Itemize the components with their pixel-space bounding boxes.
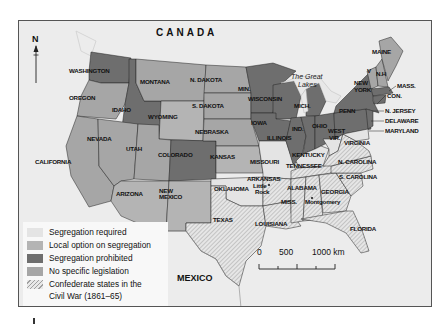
legend-swatch bbox=[27, 241, 43, 250]
legend-item-local-option: Local option on segregation bbox=[27, 239, 151, 251]
legend: Segregation required Local option on seg… bbox=[23, 222, 168, 306]
label-arkansas: ARKANSAS bbox=[247, 175, 281, 182]
label-mexico: MEXICO bbox=[177, 273, 213, 283]
label-florida: FLORIDA bbox=[350, 225, 377, 232]
label-tennessee: TENNESSEE bbox=[286, 162, 322, 169]
legend-label: Segregation prohibited bbox=[49, 253, 133, 263]
label-virginia: VIRGINIA bbox=[344, 139, 371, 146]
label-pennsylvania: PENN bbox=[339, 107, 356, 114]
label-little-rock-2: Rock bbox=[255, 188, 270, 195]
label-louisiana: LOUISIANA bbox=[255, 220, 288, 227]
label-s-dakota: S. DAKOTA bbox=[192, 102, 225, 109]
label-colorado: COLORADO bbox=[158, 151, 193, 158]
legend-item-confederate: Confederate states in the bbox=[27, 278, 142, 290]
label-indiana: IND. bbox=[292, 125, 304, 132]
label-new-mexico-2: MEXICO bbox=[159, 193, 183, 200]
scale-line bbox=[257, 257, 347, 277]
label-kansas: KANSAS bbox=[210, 153, 235, 160]
legend-item-segregation-prohibited: Segregation prohibited bbox=[27, 252, 133, 264]
label-nebraska: NEBRASKA bbox=[195, 128, 229, 135]
page-mark bbox=[33, 318, 35, 324]
label-texas: TEXAS bbox=[213, 216, 233, 223]
label-south-carolina: S. CAROLINA bbox=[339, 173, 378, 180]
scale-tick-500: 500 bbox=[279, 247, 293, 257]
legend-swatch bbox=[27, 254, 43, 263]
label-maine: MAINE bbox=[372, 48, 391, 55]
label-arizona: ARIZONA bbox=[116, 190, 144, 197]
label-canada: CANADA bbox=[156, 27, 217, 38]
north-arrow-icon bbox=[34, 45, 39, 83]
label-new-york-2: YORK bbox=[354, 86, 372, 93]
scale-tick-1000: 1000 km bbox=[312, 247, 345, 257]
label-massachusetts: MASS. bbox=[397, 82, 416, 89]
legend-item-no-legislation: No specific legislation bbox=[27, 265, 129, 277]
label-wisconsin: WISCONSIN bbox=[248, 95, 283, 102]
label-washington: WASHINGTON bbox=[69, 67, 110, 74]
label-west-virginia-2: VIR. bbox=[329, 134, 341, 141]
label-wyoming: WYOMING bbox=[148, 113, 178, 120]
label-iowa: IOWA bbox=[251, 119, 267, 126]
label-nevada: NEVADA bbox=[87, 135, 112, 142]
map-frame: CANADA MEXICO The Great Lakes N WASHINGT… bbox=[18, 20, 432, 307]
label-delaware: DELAWARE bbox=[385, 117, 419, 124]
label-illinois: ILLINOIS bbox=[267, 134, 292, 141]
legend-item-confederate-line2: Civil War (1861–65) bbox=[49, 290, 122, 302]
legend-swatch bbox=[27, 228, 43, 237]
legend-swatch bbox=[27, 267, 43, 276]
label-great-lakes-2: Lakes bbox=[298, 81, 317, 88]
label-michigan: MICH. bbox=[294, 102, 311, 109]
label-montana: MONTANA bbox=[140, 78, 170, 85]
label-new-jersey: N. JERSEY bbox=[385, 107, 417, 114]
label-north-carolina: N. CAROLINA bbox=[338, 158, 377, 165]
label-new-hampshire: N.H bbox=[376, 70, 387, 77]
legend-item-segregation-required: Segregation required bbox=[27, 226, 127, 238]
city-dot-little-rock bbox=[268, 184, 270, 186]
label-oregon: OREGON bbox=[69, 94, 96, 101]
state-connecticut bbox=[373, 95, 386, 104]
legend-label: No specific legislation bbox=[49, 266, 129, 276]
label-n-dakota: N. DAKOTA bbox=[190, 76, 223, 83]
state-colorado bbox=[169, 140, 216, 181]
north-label: N bbox=[32, 34, 39, 44]
label-ohio: OHIO bbox=[312, 122, 327, 129]
label-utah: UTAH bbox=[126, 145, 143, 152]
label-kentucky: KENTUCKY bbox=[292, 151, 326, 158]
label-montgomery: Montgomery bbox=[305, 198, 341, 205]
label-new-york: NEW bbox=[354, 79, 368, 86]
label-connecticut: CON. bbox=[387, 92, 402, 99]
legend-label: Confederate states in the bbox=[49, 279, 142, 289]
label-mississippi: MISS. bbox=[281, 198, 297, 205]
label-west-virginia: WEST bbox=[328, 127, 345, 134]
label-alabama: ALABAMA bbox=[287, 184, 318, 191]
scale-tick-0: 0 bbox=[257, 247, 262, 257]
legend-swatch-hatched bbox=[27, 280, 43, 289]
legend-label: Civil War (1861–65) bbox=[49, 291, 122, 301]
label-great-lakes-1: The Great bbox=[291, 73, 324, 80]
label-maryland: MARYLAND bbox=[385, 127, 419, 134]
label-georgia: GEORGIA bbox=[321, 188, 350, 195]
legend-label: Local option on segregation bbox=[49, 240, 151, 250]
label-minnesota: MIN. bbox=[238, 85, 251, 92]
label-idaho: IDAHO bbox=[112, 106, 131, 113]
label-missouri: MISSOURI bbox=[250, 158, 279, 165]
legend-label: Segregation required bbox=[49, 227, 127, 237]
label-california: CALIFORNIA bbox=[35, 158, 72, 165]
label-oklahoma: OKLAHOMA bbox=[214, 185, 250, 192]
